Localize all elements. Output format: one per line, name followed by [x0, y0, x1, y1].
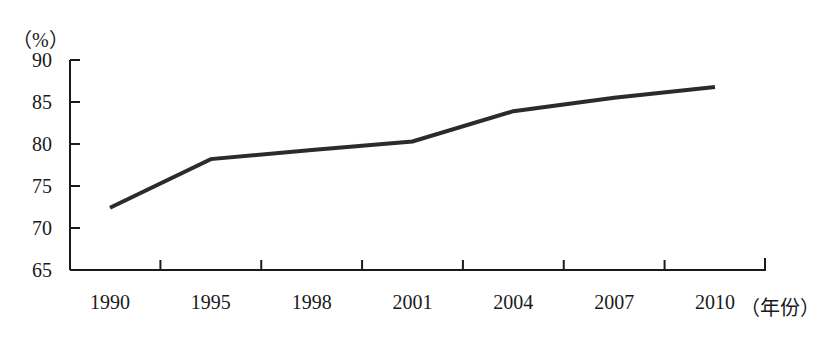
x-axis-tick-label: 1995: [171, 292, 251, 312]
data-series-line: [110, 87, 715, 208]
y-axis-tick-label: 70: [8, 218, 52, 238]
y-axis-ticks: [70, 102, 80, 270]
x-axis-tick-label: 1990: [70, 292, 150, 312]
y-axis-tick-label: 85: [8, 92, 52, 112]
x-axis-tick-label: 2004: [473, 292, 553, 312]
x-axis-ticks: [160, 260, 664, 270]
y-axis-tick-label: 80: [8, 134, 52, 154]
y-axis-tick-label: 90: [8, 50, 52, 70]
x-axis-tick-label: 2007: [574, 292, 654, 312]
y-axis-tick-label: 65: [8, 260, 52, 280]
line-chart-figure: （%） （年份） 657075808590 199019951998200120…: [0, 0, 829, 348]
x-axis-tick-label: 2010: [675, 292, 755, 312]
x-axis-tick-label: 2001: [373, 292, 453, 312]
y-axis-tick-label: 75: [8, 176, 52, 196]
x-axis-tick-label: 1998: [272, 292, 352, 312]
